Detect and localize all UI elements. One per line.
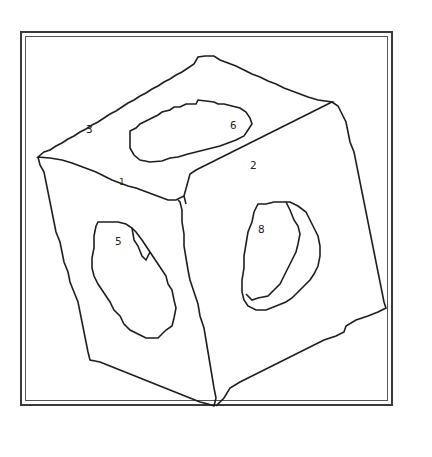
contour-label-3: 3 <box>86 124 93 135</box>
contour-label-6: 6 <box>230 120 237 131</box>
left-face-contour <box>38 157 216 406</box>
contour-label-8: 8 <box>258 224 265 235</box>
contour-label-2: 2 <box>250 160 257 171</box>
front-vertical-edge <box>184 196 186 204</box>
region-8-contour <box>242 202 320 310</box>
contour-label-1: 1 <box>119 178 124 187</box>
cube-contour-drawing <box>0 0 432 457</box>
contour-label-5: 5 <box>115 236 122 247</box>
region-8-inner-crescent <box>246 202 300 300</box>
top-face-contour <box>38 56 332 200</box>
region-5-inner-notch <box>132 228 150 260</box>
